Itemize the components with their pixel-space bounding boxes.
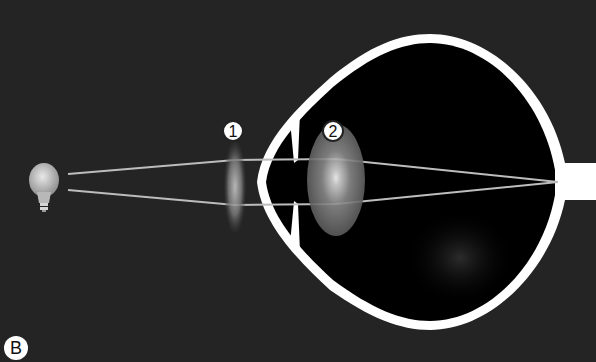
optic-nerve [568, 163, 596, 200]
eye-diagram [0, 0, 596, 362]
lens-label-1: 1 [222, 120, 244, 142]
diagram-canvas: 1 2 B [0, 0, 596, 362]
light-bulb-icon [29, 163, 59, 212]
external-lens [224, 141, 246, 233]
fundus-glow [405, 210, 515, 306]
lens-label-2: 2 [322, 120, 344, 142]
panel-label: B [4, 336, 28, 360]
